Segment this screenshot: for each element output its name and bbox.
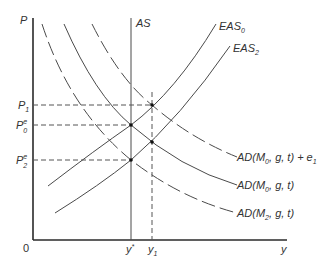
origin-label: 0 [23,242,29,254]
eas2-label: EAS2 [233,42,259,56]
equilibrium-eas2-adm0 [150,140,154,144]
as-label: AS [135,17,151,29]
equilibrium-p2e-ystar [129,158,133,162]
ystar-label: y* [125,243,135,255]
equilibrium-p0e-ystar [129,123,133,127]
equilibrium-p1-y1 [150,103,154,107]
eas2-curve [55,46,230,213]
ad-m2-label: AD(M2, g, t) [236,207,294,221]
ad-m0-label: AD(M0, g, t) [236,179,294,193]
price-axis-label: P [20,14,28,26]
y1-label: y1 [147,243,158,257]
ad-e1-label: AD(M0, g, t) + e1 [236,151,317,165]
ad-as-diagram: P 0 y AS P1 Pe0 Pe2 y* y1 EAS0 EAS2 AD( [0,0,328,266]
p1-label: P1 [18,99,29,113]
p2e-label: Pe2 [16,153,27,169]
output-axis-label: y [280,243,288,255]
p0e-label: Pe0 [16,118,27,134]
eas0-label: EAS0 [219,20,245,34]
